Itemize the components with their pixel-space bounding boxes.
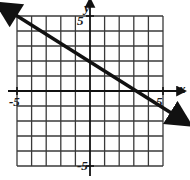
- y-axis-name-label: y: [84, 1, 90, 14]
- y-axis-negative-tick-label: -5: [77, 159, 88, 172]
- coordinate-plane-figure: 5 -5 -5 5 y x: [0, 0, 190, 180]
- graph-canvas: [0, 0, 190, 180]
- plotted-line: [14, 14, 176, 116]
- x-axis-negative-tick-label: -5: [9, 95, 20, 108]
- y-axis-positive-tick-label: 5: [77, 14, 84, 27]
- x-axis-name-label: x: [179, 82, 186, 95]
- x-axis-positive-tick-label: 5: [156, 95, 163, 108]
